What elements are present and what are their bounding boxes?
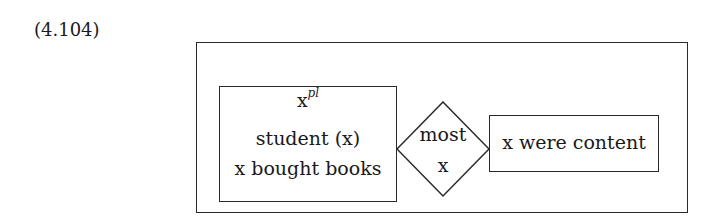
discourse-referent: xpl bbox=[219, 89, 397, 111]
referent-variable: x bbox=[297, 89, 308, 111]
restrictor-condition-1: student (x) bbox=[219, 127, 397, 149]
quantifier-diamond bbox=[396, 101, 490, 198]
example-number: (4.104) bbox=[34, 19, 100, 40]
restrictor-condition-2: x bought books bbox=[219, 157, 397, 179]
plural-superscript: pl bbox=[308, 86, 320, 100]
quantifier-variable: x bbox=[397, 154, 489, 176]
scope-condition: x were content bbox=[489, 131, 659, 153]
quantifier-label: most bbox=[397, 123, 489, 145]
